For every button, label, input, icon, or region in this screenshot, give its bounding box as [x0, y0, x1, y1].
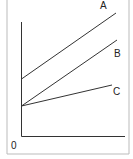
label-b: B	[114, 48, 121, 59]
frame-border	[7, 0, 129, 154]
line-c	[22, 85, 113, 106]
label-a: A	[100, 0, 107, 11]
label-c: C	[113, 86, 120, 97]
diagram-canvas: A B C 0	[0, 0, 133, 159]
origin-label: 0	[11, 140, 17, 151]
line-b	[22, 40, 118, 106]
line-a	[22, 13, 117, 79]
